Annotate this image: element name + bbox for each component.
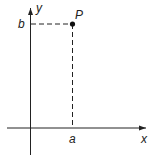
coordinate-diagram: y P b a x	[0, 0, 161, 157]
diagram-svg: y P b a x	[0, 0, 161, 157]
point-p-dot	[70, 21, 75, 26]
point-label: P	[75, 8, 83, 22]
x-axis-label: x	[140, 132, 148, 146]
y-coordinate-label: b	[18, 17, 25, 31]
x-coordinate-label: a	[69, 132, 76, 146]
y-axis-label: y	[35, 1, 43, 15]
